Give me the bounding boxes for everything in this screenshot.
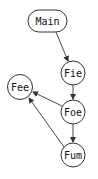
node-fee-label: Fee xyxy=(11,82,29,93)
graph-canvas: Main Fie Fee Foe Fum xyxy=(0,0,98,179)
node-main[interactable]: Main xyxy=(28,10,67,32)
node-foe-label: Foe xyxy=(64,107,82,118)
edge-foe-to-fee xyxy=(33,92,62,106)
node-fie-label: Fie xyxy=(64,68,82,79)
edge-main-to-fie xyxy=(56,32,68,61)
node-fee[interactable]: Fee xyxy=(8,75,33,100)
graph-svg: Main Fie Fee Foe Fum xyxy=(0,0,98,179)
node-fum[interactable]: Fum xyxy=(61,143,85,167)
edge-fum-to-fee xyxy=(29,98,64,147)
node-foe[interactable]: Foe xyxy=(61,100,85,124)
node-fum-label: Fum xyxy=(64,150,82,161)
node-main-label: Main xyxy=(35,16,59,27)
node-fie[interactable]: Fie xyxy=(61,61,85,85)
